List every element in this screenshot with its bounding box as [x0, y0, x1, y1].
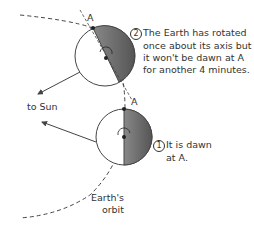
- marker-2: 2: [130, 28, 142, 40]
- note-2: 2The Earth has rotated once about its ax…: [130, 27, 252, 76]
- point-a-top-label: A: [87, 12, 94, 24]
- marker-1: 1: [153, 140, 165, 152]
- orbit-label: Earth's orbit: [90, 192, 124, 216]
- earth-position-2: [75, 10, 135, 100]
- point-a-bottom-label: A: [131, 96, 138, 108]
- to-sun-label: to Sun: [27, 101, 58, 113]
- earth-rotation-diagram: A A to Sun Earth's orbit 2The Earth has …: [0, 0, 254, 237]
- note-1: 1It is dawn at A.: [153, 139, 212, 164]
- sun-arrow-top: [38, 72, 80, 94]
- sun-arrow-bottom: [42, 122, 96, 142]
- earth-position-1: [96, 107, 152, 165]
